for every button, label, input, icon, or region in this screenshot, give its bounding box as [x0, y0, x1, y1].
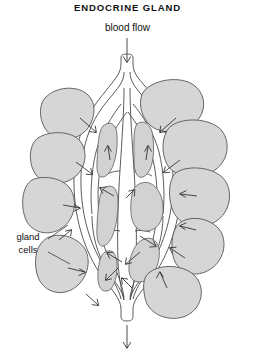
outlet-arrow-icon [123, 325, 131, 348]
arrow-icon [86, 294, 99, 306]
gland-cell [35, 235, 88, 292]
gland-cell [170, 168, 230, 227]
endocrine-gland-illustration [0, 0, 255, 355]
diagram-canvas: ENDOCRINE GLAND blood flow gland cells [0, 0, 255, 355]
inlet-arrow-icon [123, 38, 131, 63]
gland-cell [23, 177, 75, 232]
gland-cell [172, 218, 224, 274]
gland-cell [144, 266, 202, 318]
gland-cell [30, 133, 85, 184]
